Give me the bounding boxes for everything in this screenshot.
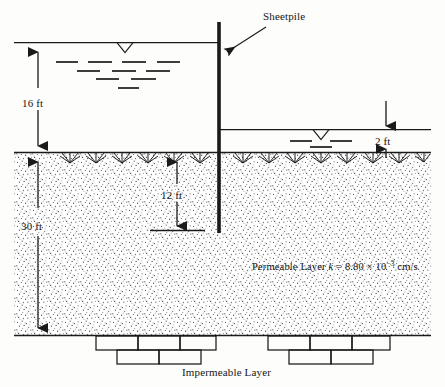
downstream-water-table-symbol	[313, 130, 329, 140]
upstream-water-dashes	[56, 62, 180, 88]
dimension-label-30ft: 30 ft	[21, 220, 42, 232]
figure-container: Sheetpile 16 ft 30 ft 12 ft 2 ft Permeab…	[0, 0, 445, 387]
downstream-water-dashes	[290, 141, 352, 147]
upstream-water-table-symbol	[117, 43, 133, 53]
permeable-prefix: Permeable Layer	[252, 261, 328, 272]
permeable-layer-label: Permeable Layer k = 8.80 × 10−3 cm/s	[252, 261, 418, 273]
impermeable-masonry-left	[96, 336, 216, 364]
impermeable-masonry-right	[268, 336, 390, 364]
dimension-label-2ft: 2 ft	[375, 135, 391, 147]
sheetpile-leader-arrow	[227, 27, 266, 52]
permeability-value: = 8.80 × 10	[333, 261, 386, 272]
permeability-exponent: −3	[386, 259, 394, 268]
permeable-layer-body	[14, 152, 431, 335]
dimension-label-16ft: 16 ft	[22, 97, 43, 109]
permeability-units: cm/s	[395, 261, 418, 272]
impermeable-layer-label: Impermeable Layer	[182, 366, 271, 378]
sheetpile-diagram	[0, 0, 445, 387]
sheetpile-label: Sheetpile	[263, 10, 305, 22]
dimension-label-12ft: 12 ft	[161, 189, 182, 201]
